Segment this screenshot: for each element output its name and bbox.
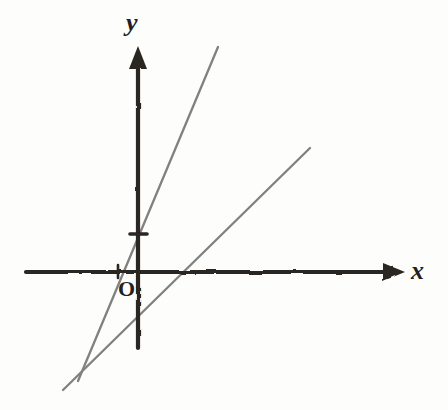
steep-line xyxy=(78,47,218,381)
axes xyxy=(26,46,405,348)
coordinate-graph-figure: y x O xyxy=(0,0,448,410)
graph-canvas xyxy=(0,0,448,410)
x-axis-arrow-icon xyxy=(383,263,405,281)
shallow-line xyxy=(63,148,310,390)
function-lines xyxy=(63,47,310,390)
y-axis-arrow-icon xyxy=(129,46,147,69)
y-axis-label: y xyxy=(126,10,138,36)
origin-label: O xyxy=(118,278,135,300)
x-axis-label: x xyxy=(411,258,424,284)
